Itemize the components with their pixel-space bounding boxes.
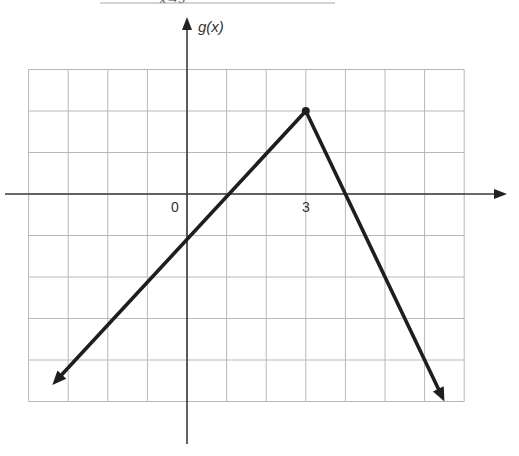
graph-of-g xyxy=(0,0,519,456)
axes xyxy=(5,17,507,444)
x-axis-arrow-icon xyxy=(494,189,507,199)
y-axis-label: g(x) xyxy=(198,18,224,35)
y-axis-arrow-icon xyxy=(182,17,192,30)
vertex-dot xyxy=(302,107,310,115)
origin-tick-label: 0 xyxy=(171,199,179,215)
g-line xyxy=(58,111,441,394)
grid xyxy=(29,70,465,402)
x-tick-label-3: 3 xyxy=(302,199,310,215)
function-curve xyxy=(52,107,444,402)
